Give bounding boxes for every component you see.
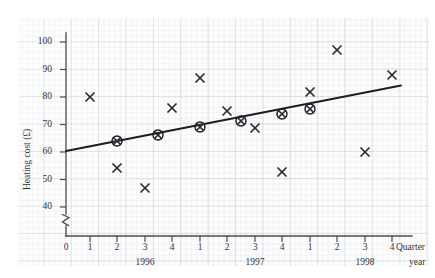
chart-figure: Heating cost (£) 100 90 80 70 60 50 40 0…: [0, 0, 435, 278]
data-point-1996-q1: [86, 93, 94, 101]
data-point-1998-q2: [333, 46, 341, 54]
moving-average-point-2: [153, 130, 163, 140]
moving-average-point-6: [305, 104, 315, 114]
data-point-1996-q2: [113, 164, 121, 172]
data-point-cross-group: [86, 46, 396, 192]
data-point-1996-q4: [168, 104, 176, 112]
data-point-1996-q3: [141, 184, 149, 192]
data-point-1997-q2: [223, 107, 231, 115]
y-axis-break-icon: [63, 215, 70, 226]
data-point-1998-q3: [361, 148, 369, 156]
data-point-1998-q1: [306, 88, 314, 96]
data-point-1997-q3: [251, 124, 259, 132]
moving-average-point-group: [112, 104, 315, 146]
plot-area: [0, 0, 435, 278]
data-point-1998-q4: [388, 71, 396, 79]
y-tick-marks: [60, 42, 66, 207]
data-point-1997-q1: [196, 74, 204, 82]
x-tick-marks: [90, 236, 392, 242]
moving-average-point-3: [195, 122, 205, 132]
data-point-1997-q4: [278, 168, 286, 176]
moving-average-point-5: [277, 109, 287, 119]
